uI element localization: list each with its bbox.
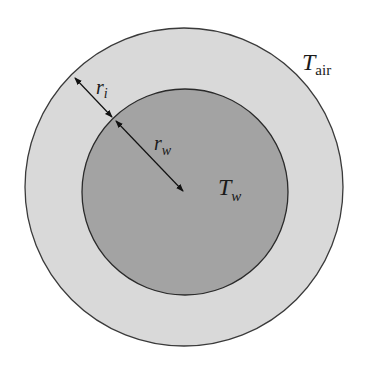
label-tair: Tair [302,49,331,78]
inner-circle [82,89,288,295]
diagram-canvas: ri rw Tw Tair [0,0,366,369]
